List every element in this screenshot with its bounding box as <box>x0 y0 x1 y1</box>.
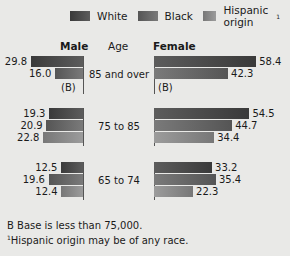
female-bar <box>154 132 214 143</box>
age-group-label: 85 and over <box>84 69 154 80</box>
female-value-label: 22.3 <box>196 186 218 197</box>
female-bar <box>154 68 228 79</box>
female-bar <box>154 108 249 119</box>
female-value-label: 35.4 <box>219 174 241 185</box>
male-header: Male <box>60 40 88 52</box>
age-group-label: 75 to 85 <box>84 121 154 132</box>
age-group-label: 65 to 74 <box>84 175 154 186</box>
male-value-label: 29.8 <box>5 56 27 67</box>
male-bar <box>55 68 83 79</box>
legend-item-white: White <box>70 10 128 22</box>
male-bar <box>43 132 83 143</box>
note-hispanic: 1Hispanic origin may be of any race. <box>7 234 188 246</box>
female-value-label: 34.4 <box>217 132 239 143</box>
female-header: Female <box>153 40 196 52</box>
legend: White Black Hispanic origin1 <box>70 9 290 23</box>
legend-label: Hispanic origin <box>223 4 276 28</box>
note-hispanic-text: Hispanic origin may be of any race. <box>11 235 189 246</box>
female-bar <box>154 56 256 67</box>
female-value-label: 42.3 <box>231 68 253 79</box>
female-value-label: 44.7 <box>235 120 257 131</box>
female-bar <box>154 174 216 185</box>
note-base: B Base is less than 75,000. <box>7 220 142 231</box>
male-value-label: 16.0 <box>29 68 51 79</box>
female-bar <box>154 186 193 197</box>
legend-swatch-hispanic <box>203 11 217 21</box>
male-bar <box>49 108 83 119</box>
female-bar <box>154 120 232 131</box>
legend-label: Black <box>165 10 193 22</box>
legend-swatch-white <box>70 11 90 21</box>
male-bar <box>61 186 83 197</box>
male-bar <box>46 120 83 131</box>
male-value-label: 20.9 <box>20 120 42 131</box>
age-header: Age <box>108 40 128 52</box>
female-value-label: (B) <box>158 82 173 93</box>
male-value-label: 19.3 <box>23 108 45 119</box>
male-value-label: (B) <box>61 82 76 93</box>
legend-item-hispanic: Hispanic origin1 <box>203 4 280 28</box>
male-value-label: 19.6 <box>23 174 45 185</box>
female-value-label: 54.5 <box>252 108 274 119</box>
legend-item-black: Black <box>138 10 193 22</box>
male-bar <box>61 162 83 173</box>
male-bar <box>49 174 83 185</box>
female-value-label: 33.2 <box>215 162 237 173</box>
male-value-label: 22.8 <box>17 132 39 143</box>
male-bar <box>31 56 83 67</box>
female-bar <box>154 162 212 173</box>
legend-label: White <box>97 10 128 22</box>
legend-swatch-black <box>138 11 158 21</box>
male-value-label: 12.4 <box>35 186 57 197</box>
female-value-label: 58.4 <box>259 56 281 67</box>
male-value-label: 12.5 <box>35 162 57 173</box>
footnote-marker: 1 <box>276 13 280 20</box>
